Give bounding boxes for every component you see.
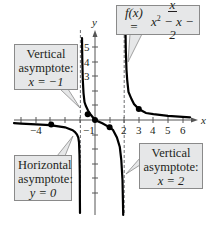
y-tick-label: 4 bbox=[84, 56, 90, 68]
function-numerator: x bbox=[168, 0, 178, 12]
x-tick-label: 3 bbox=[136, 124, 142, 136]
x-tick-label: 2 bbox=[121, 124, 127, 136]
callout-line: Horizontal bbox=[18, 158, 68, 172]
point-neg3 bbox=[48, 121, 54, 127]
callout-pointer-va1 bbox=[60, 89, 80, 108]
x-tick-label: −1 bbox=[83, 124, 95, 136]
callout-line: Vertical bbox=[18, 47, 74, 61]
x-tick-label: −4 bbox=[30, 124, 42, 136]
callout-vertical-asymptote-left: Vertical asymptote: x = −1 bbox=[14, 44, 78, 90]
callout-line: asymptote: bbox=[143, 160, 199, 174]
x-tick-label: 5 bbox=[165, 124, 171, 136]
point-origin bbox=[92, 117, 98, 123]
callout-function-definition: f(x) = x x2 − x − 2 bbox=[116, 5, 200, 35]
x-tick-label: 6 bbox=[180, 124, 186, 136]
callout-pointer-va2 bbox=[126, 158, 140, 174]
point-3 bbox=[136, 106, 142, 112]
x-tick-label: 4 bbox=[150, 124, 156, 136]
function-denominator: x2 − x − 2 bbox=[150, 12, 195, 41]
point-1 bbox=[107, 124, 113, 130]
y-tick-label: 5 bbox=[84, 41, 90, 53]
function-fraction: x x2 − x − 2 bbox=[150, 0, 195, 41]
callout-pointer-ha bbox=[57, 136, 73, 156]
callout-equation: x = 2 bbox=[143, 174, 199, 188]
callout-vertical-asymptote-right: Vertical asymptote: x = 2 bbox=[139, 143, 203, 189]
point-neg0-5 bbox=[85, 111, 91, 117]
callout-line: asymptote: bbox=[18, 61, 74, 75]
callout-equation: x = −1 bbox=[18, 75, 74, 89]
callout-equation: y = 0 bbox=[18, 186, 68, 200]
y-axis-label: y bbox=[91, 16, 97, 28]
x-axis-label: x bbox=[200, 114, 206, 126]
callout-pointer-fn bbox=[128, 34, 142, 62]
y-axis-arrow-icon bbox=[93, 30, 98, 37]
callout-line: asymptote: bbox=[18, 172, 68, 186]
x-axis-arrow-icon bbox=[191, 118, 198, 123]
callout-line: Vertical bbox=[143, 146, 199, 160]
x-axis bbox=[14, 117, 198, 123]
y-tick-label: 3 bbox=[84, 70, 90, 82]
callout-horizontal-asymptote: Horizontal asymptote: y = 0 bbox=[14, 155, 72, 201]
function-label: f(x) = bbox=[121, 6, 147, 34]
